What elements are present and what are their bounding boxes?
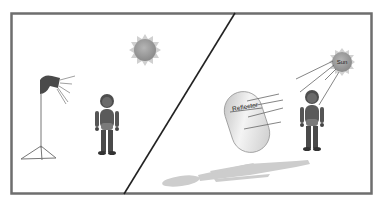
sun-label: Sun (337, 59, 348, 65)
lighting-diagram: Sun Reflector (0, 0, 381, 208)
